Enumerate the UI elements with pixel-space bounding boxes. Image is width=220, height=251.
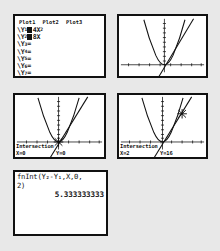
- intersection-y-value: Y=16: [160, 150, 173, 156]
- intersection-title: Intersection: [16, 143, 54, 149]
- plot-style-icon[interactable]: \: [17, 69, 21, 77]
- home-screen[interactable]: fnInt(Y₂-Y₁,X,0, 2) 5.333333333: [13, 170, 108, 236]
- fnint-result-value: 5.333333333: [15, 190, 106, 200]
- cursor-block-icon: [27, 34, 32, 40]
- graph-screen-intersection-two[interactable]: Intersection X=2 Y=16: [117, 93, 208, 159]
- intersection-y-value: Y=0: [56, 150, 65, 156]
- plot3-label[interactable]: Plot3: [66, 19, 82, 25]
- cursor-block-icon: [27, 27, 32, 33]
- intersection-cursor-icon: [177, 109, 187, 118]
- y-row-2-expression[interactable]: 8X: [33, 33, 41, 41]
- y-function-list: \Y14X2 \Y28X \Y3= \Y4= \Y5= \Y6= \Y7=: [15, 26, 104, 77]
- graph-screen-plain[interactable]: [117, 14, 208, 78]
- line-curve-y2: [49, 97, 87, 157]
- intersection-x-value: X=0: [16, 150, 25, 156]
- line-curve-y2: [153, 97, 191, 157]
- line-curve-y2: [155, 19, 193, 76]
- graph-screen-intersection-origin[interactable]: Intersection X=0 Y=0: [13, 93, 106, 159]
- fnint-expression-line2[interactable]: 2): [15, 181, 106, 190]
- intersection-cursor-icon: [54, 137, 64, 146]
- y-row-7-equals: =: [27, 69, 31, 77]
- y-row-7[interactable]: \Y7=: [17, 70, 104, 77]
- graph-plot-area: [119, 16, 206, 76]
- y-equals-editor-screen[interactable]: Plot1 Plot2 Plot3 \Y14X2 \Y28X \Y3= \Y4=…: [13, 14, 106, 78]
- plot-header-row: Plot1 Plot2 Plot3: [15, 16, 104, 26]
- plot2-label[interactable]: Plot2: [42, 19, 58, 25]
- intersection-title: Intersection: [120, 143, 158, 149]
- plot1-label[interactable]: Plot1: [19, 19, 35, 25]
- y-row-1[interactable]: \Y14X2: [17, 26, 104, 33]
- intersection-x-value: X=2: [120, 150, 129, 156]
- y-row-1-exponent: 2: [40, 27, 43, 32]
- fnint-expression-line1[interactable]: fnInt(Y₂-Y₁,X,0,: [15, 172, 106, 181]
